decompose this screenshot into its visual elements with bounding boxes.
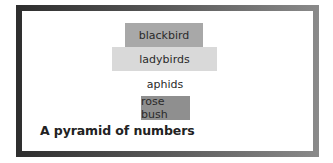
diagram-canvas: blackbird ladybirds aphids rose bush A p… — [22, 11, 313, 151]
pyramid-level-aphids: aphids — [127, 72, 203, 96]
pyramid-level-rose-bush: rose bush — [141, 96, 190, 120]
level-label: ladybirds — [139, 53, 189, 66]
pyramid-level-blackbird: blackbird — [125, 23, 203, 47]
level-label: blackbird — [139, 29, 190, 42]
level-label: aphids — [147, 78, 183, 91]
pyramid-level-ladybirds: ladybirds — [112, 47, 217, 71]
diagram-frame: blackbird ladybirds aphids rose bush A p… — [16, 5, 319, 157]
level-label: rose bush — [141, 95, 190, 121]
diagram-title: A pyramid of numbers — [40, 123, 195, 138]
